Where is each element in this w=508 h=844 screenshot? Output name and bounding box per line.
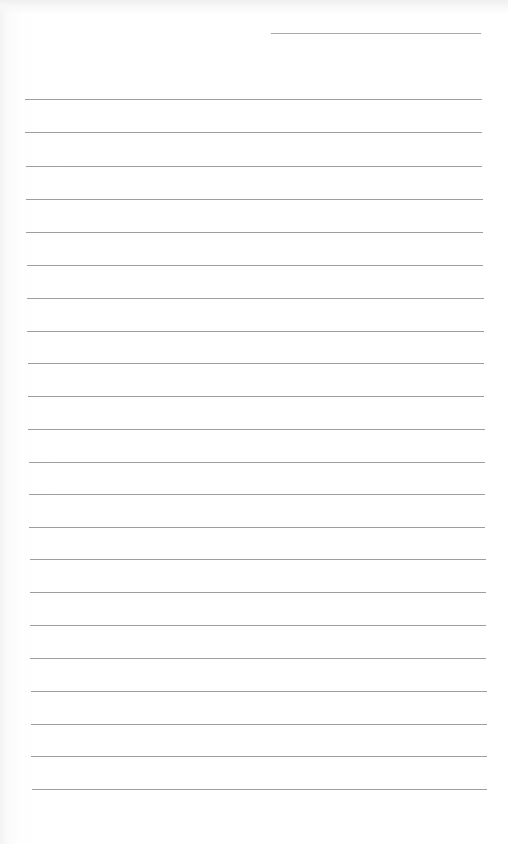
ruled-line: [29, 462, 485, 463]
ruled-line: [31, 724, 487, 725]
ruled-line: [30, 559, 486, 560]
ruled-line: [26, 232, 483, 233]
ruled-line: [30, 625, 486, 626]
ruled-line: [30, 658, 486, 659]
date-line: [271, 33, 481, 34]
ruled-line: [25, 132, 482, 133]
ruled-line: [29, 527, 485, 528]
ruled-line: [25, 99, 482, 100]
ruled-line: [31, 691, 487, 692]
ruled-line: [30, 592, 486, 593]
ruled-line: [27, 298, 484, 299]
lined-paper-page: [0, 0, 508, 844]
ruled-line: [28, 396, 484, 397]
ruled-line: [27, 331, 484, 332]
ruled-line: [28, 429, 485, 430]
scan-edge-shade: [0, 0, 508, 14]
ruled-line: [27, 265, 483, 266]
ruled-line: [26, 166, 482, 167]
ruled-line: [26, 199, 483, 200]
ruled-line: [31, 756, 487, 757]
ruled-line: [29, 494, 485, 495]
ruled-line: [32, 789, 487, 790]
ruled-line: [28, 363, 484, 364]
